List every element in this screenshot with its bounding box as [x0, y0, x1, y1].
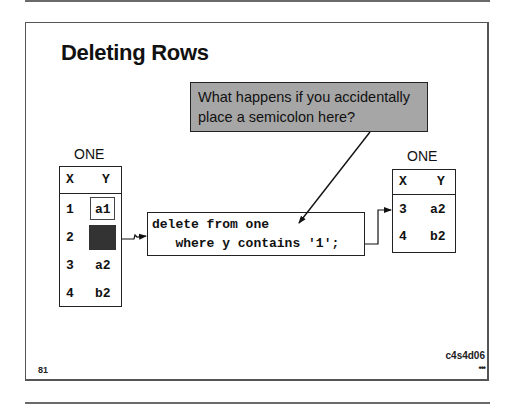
arrow-callout-to-semicolon-spot	[299, 132, 370, 223]
more-indicator-icon: •••	[479, 363, 485, 373]
page-number: 81	[38, 365, 48, 375]
arrow-code-to-right-table	[365, 210, 391, 244]
next-slide-border	[25, 402, 490, 404]
connector-arrows	[0, 0, 514, 408]
arrow-left-table-to-code	[122, 235, 146, 239]
slide-id: c4s4d06	[446, 350, 485, 361]
